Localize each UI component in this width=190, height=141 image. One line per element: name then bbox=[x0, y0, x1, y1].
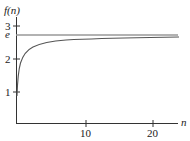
ytick-label-2: 2 bbox=[5, 53, 11, 65]
chart: f(n) 3 e 2 1 10 20 n bbox=[0, 0, 190, 141]
y-axis-label: f(n) bbox=[4, 4, 20, 17]
f-curve bbox=[17, 37, 179, 96]
x-axis-label: n bbox=[181, 116, 187, 128]
ytick-label-e: e bbox=[5, 28, 10, 40]
ytick-label-1: 1 bbox=[5, 86, 11, 98]
xtick-label-20: 20 bbox=[147, 127, 159, 139]
xtick-label-10: 10 bbox=[80, 127, 92, 139]
